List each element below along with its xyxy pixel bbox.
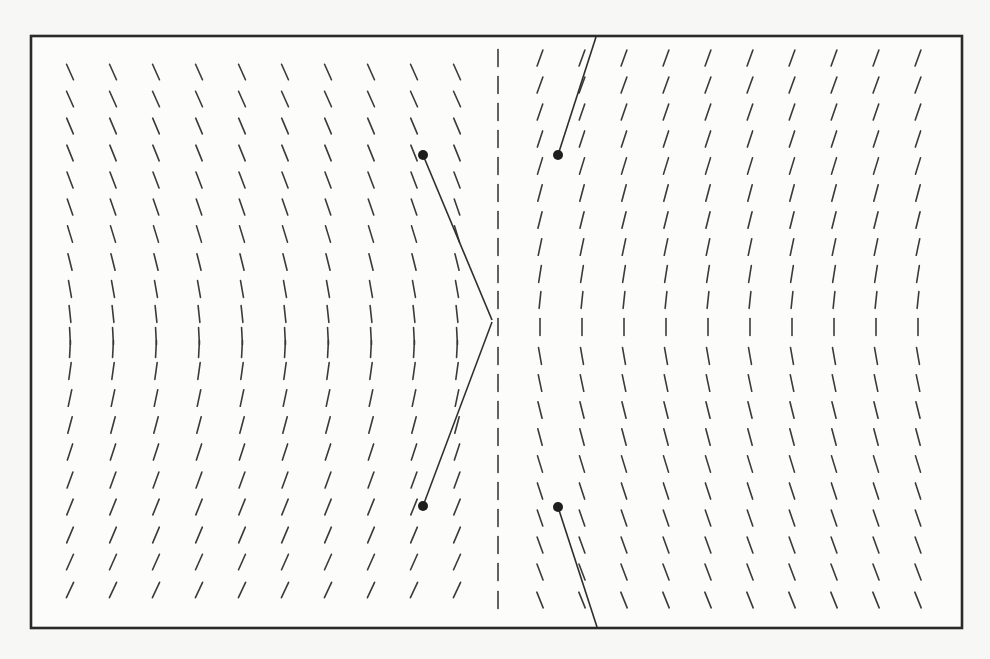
dot-upper-right [553, 150, 563, 160]
tick-mark [285, 341, 286, 358]
tick-mark [457, 341, 458, 358]
tick-mark [328, 341, 329, 358]
tick-mark [70, 341, 71, 358]
orientation-field-figure [0, 0, 990, 659]
tick-mark [113, 341, 114, 358]
dot-lower-right [553, 502, 563, 512]
tick-mark [242, 341, 243, 358]
dot-upper-left [418, 150, 428, 160]
figure-frame [31, 36, 962, 628]
tick-mark [199, 341, 200, 358]
tick-mark [156, 341, 157, 358]
tick-mark [371, 341, 372, 358]
tick-mark [414, 341, 415, 358]
dot-lower-left [418, 501, 428, 511]
